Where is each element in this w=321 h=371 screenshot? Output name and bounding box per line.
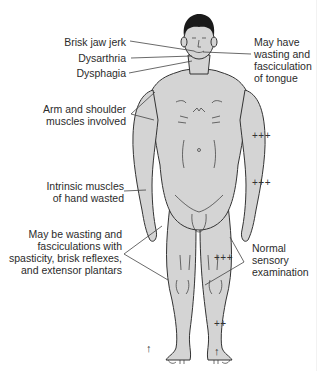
label-brisk-jaw-jerk: Brisk jaw jerk: [38, 36, 126, 48]
label-dysphagia: Dysphagia: [38, 67, 126, 79]
label-normal-sensory-line3: examination: [252, 266, 309, 278]
label-arm-shoulder-line1: Arm and shoulder: [20, 103, 126, 115]
label-leg-wasting: May be wasting and fasciculations with s…: [0, 228, 122, 276]
reflex-grade-biceps: +++: [252, 130, 271, 141]
label-intrinsic-hand: Intrinsic muscles of hand wasted: [20, 180, 124, 204]
label-arm-shoulder-line2: muscles involved: [20, 115, 126, 127]
plantar-up-arrow-icon-right: ↑: [214, 345, 220, 357]
label-normal-sensory: Normal sensory examination: [252, 242, 309, 278]
label-tongue-line3: fasciculation: [254, 60, 312, 72]
plantar-up-arrow-icon-left: ↑: [146, 342, 152, 354]
label-dysarthria: Dysarthria: [38, 52, 126, 64]
reflex-grade-ankle: ++: [214, 318, 227, 329]
label-arm-shoulder: Arm and shoulder muscles involved: [20, 103, 126, 127]
motor-neurone-disease-diagram: Brisk jaw jerk Dysarthria Dysphagia Arm …: [0, 0, 321, 371]
label-intrinsic-hand-line1: Intrinsic muscles: [20, 180, 124, 192]
page-edge-divider: [316, 0, 317, 371]
reflex-grade-supinator: +++: [252, 177, 271, 188]
label-intrinsic-hand-line2: of hand wasted: [20, 192, 124, 204]
label-tongue: May have wasting and fasciculation of to…: [254, 36, 312, 84]
label-normal-sensory-line1: Normal: [252, 242, 309, 254]
label-tongue-line1: May have: [254, 36, 312, 48]
label-normal-sensory-line2: sensory: [252, 254, 309, 266]
label-leg-wasting-line1: May be wasting and: [0, 228, 122, 240]
label-leg-wasting-line3: spasticity, brisk reflexes,: [0, 252, 122, 264]
label-tongue-line2: wasting and: [254, 48, 312, 60]
label-leg-wasting-line4: and extensor plantars: [0, 264, 122, 276]
label-leg-wasting-line2: fasciculations with: [0, 240, 122, 252]
label-tongue-line4: of tongue: [254, 72, 312, 84]
reflex-grade-knee: +++: [214, 252, 233, 263]
